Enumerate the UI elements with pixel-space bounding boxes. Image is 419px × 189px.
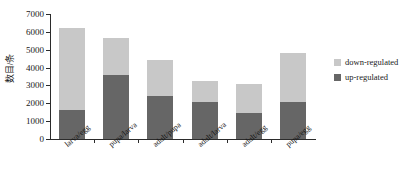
chart-legend: down-regulatedup-regulated [334,57,398,82]
y-tick-label: 0 [40,134,45,144]
x-tick-mark [138,139,139,143]
y-tick-mark [46,14,50,15]
legend-label: down-regulated [345,57,398,67]
y-tick-mark [46,139,50,140]
legend-item-up-regulated[interactable]: up-regulated [334,72,398,82]
y-axis-line [50,14,51,140]
y-tick-label: 6000 [26,27,44,37]
y-tick-label: 1000 [26,116,44,126]
bar-larva-egg [59,28,85,139]
legend-label: up-regulated [345,72,388,82]
plot-area: 01000200030004000500060007000 larva/eggp… [50,14,315,139]
chart-figure: 数目/条 01000200030004000500060007000 larva… [0,0,419,189]
y-tick-mark [46,85,50,86]
y-axis-label: 数目/条 [3,44,16,94]
legend-swatch-icon [334,59,341,66]
y-tick-mark [46,50,50,51]
bar-segment-down-regulated [236,84,262,113]
bar-segment-down-regulated [103,38,129,75]
y-tick-label: 3000 [26,80,44,90]
x-tick-mark [183,139,184,143]
y-tick-mark [46,103,50,104]
y-tick-mark [46,121,50,122]
bar-segment-down-regulated [59,28,85,109]
y-tick-mark [46,32,50,33]
legend-item-down-regulated[interactable]: down-regulated [334,57,398,67]
y-tick-mark [46,68,50,69]
y-tick-label: 5000 [26,45,44,55]
legend-swatch-icon [334,74,341,81]
x-tick-mark [271,139,272,143]
bar-segment-down-regulated [192,81,218,102]
x-tick-mark [227,139,228,143]
bar-segment-down-regulated [147,60,173,96]
y-tick-label: 4000 [26,63,44,73]
y-tick-label: 7000 [26,9,44,19]
x-tick-mark [94,139,95,143]
bar-pupa-larva [103,38,129,139]
y-tick-label: 2000 [26,98,44,108]
bar-segment-down-regulated [280,53,306,102]
